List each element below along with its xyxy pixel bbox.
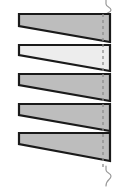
- diagram-canvas: [0, 0, 125, 188]
- wedge-stack-diagram: [0, 0, 125, 188]
